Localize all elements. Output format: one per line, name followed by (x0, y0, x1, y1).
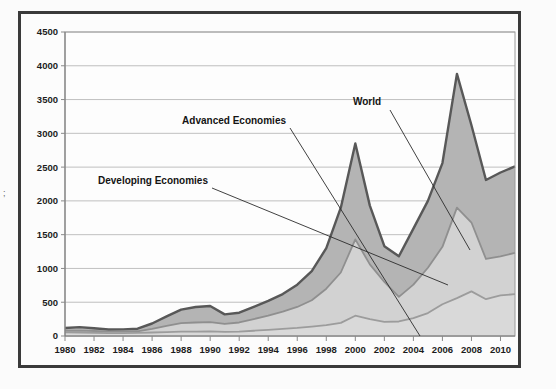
y-tick-label-3000: 3000 (37, 128, 58, 139)
x-tick-label-1986: 1986 (142, 344, 163, 355)
annotation-label-world: World (353, 96, 381, 107)
x-tick-label-2006: 2006 (432, 344, 453, 355)
x-tick-label-2004: 2004 (403, 344, 425, 355)
annotation-label-advanced-economies: Advanced Economies (182, 115, 286, 126)
y-tick-label-500: 500 (42, 297, 58, 308)
y-tick-label-4000: 4000 (37, 60, 58, 71)
y-tick-label-1500: 1500 (37, 229, 58, 240)
x-tick-label-1992: 1992 (229, 344, 250, 355)
y-tick-label-3500: 3500 (37, 94, 58, 105)
x-tick-label-1988: 1988 (171, 344, 192, 355)
annotation-label-developing-economies: Developing Economies (98, 175, 208, 186)
y-tick-label-2000: 2000 (37, 195, 58, 206)
stacked-area-chart: 050010001500200025003000350040004500 198… (0, 0, 556, 389)
x-tick-label-1984: 1984 (112, 344, 134, 355)
x-tick-label-1990: 1990 (200, 344, 221, 355)
y-axis-tick-labels: 050010001500200025003000350040004500 (37, 26, 65, 341)
chart-canvas: 050010001500200025003000350040004500 198… (0, 0, 556, 389)
x-tick-label-2010: 2010 (490, 344, 511, 355)
y-tick-label-0: 0 (53, 330, 58, 341)
x-tick-label-1982: 1982 (83, 344, 104, 355)
y-tick-label-4500: 4500 (37, 26, 58, 37)
x-tick-label-1980: 1980 (54, 344, 75, 355)
x-tick-label-1996: 1996 (287, 344, 308, 355)
x-tick-label-2008: 2008 (461, 344, 482, 355)
x-tick-label-2002: 2002 (374, 344, 395, 355)
x-axis-tick-labels: 1980198219841986198819901992199419961998… (54, 336, 511, 355)
x-tick-label-1998: 1998 (316, 344, 337, 355)
x-tick-label-2000: 2000 (345, 344, 366, 355)
y-tick-label-1000: 1000 (37, 263, 58, 274)
chart-page: ; 050010001500200025003000350040004500 1… (0, 0, 556, 389)
y-tick-label-2500: 2500 (37, 162, 58, 173)
x-tick-label-1994: 1994 (258, 344, 280, 355)
